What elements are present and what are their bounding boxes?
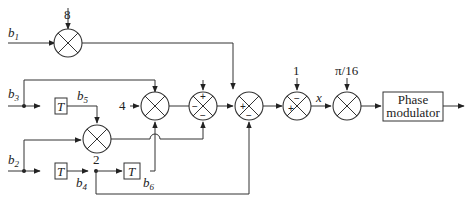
summer-2-sign-bottom: − (246, 110, 252, 121)
delay-T-1-label: T (57, 99, 65, 114)
b2-path (8, 122, 249, 194)
delay-T-2-label: T (57, 164, 65, 179)
b4-label: b4 (76, 175, 88, 192)
multiplier-gain2 (83, 122, 203, 153)
b1-path (8, 8, 233, 89)
summer-1 (189, 80, 233, 120)
summer-3-sign-left: + (288, 103, 294, 114)
b3-label: b3 (8, 86, 20, 103)
gain-4-label: 4 (119, 98, 126, 113)
b5-label: b5 (77, 88, 89, 105)
summer-1-sign-bottom: − (200, 110, 206, 121)
multiplier-pi-16 (333, 78, 381, 120)
gain-2-label: 2 (93, 152, 100, 167)
summer-1-sign-left: − (192, 101, 198, 112)
b2-label: b2 (8, 152, 20, 169)
summer-3-sign-top: − (294, 93, 300, 104)
block-diagram: 8 b1 T b3 b5 4 T T b2 b4 b (0, 0, 468, 203)
delay-T-3-label: T (128, 164, 136, 179)
b1-label: b1 (8, 25, 19, 42)
phase-scale-label: π/16 (335, 63, 359, 78)
b6-label: b6 (143, 175, 155, 192)
gain-8-label: 8 (64, 7, 71, 22)
multiplier-b1 (54, 29, 82, 57)
phase-modulator-line2: modulator (386, 105, 440, 120)
offset-1-label: 1 (293, 63, 300, 78)
x-signal-label: x (315, 90, 322, 105)
summer-1-sign-top: + (200, 91, 206, 102)
